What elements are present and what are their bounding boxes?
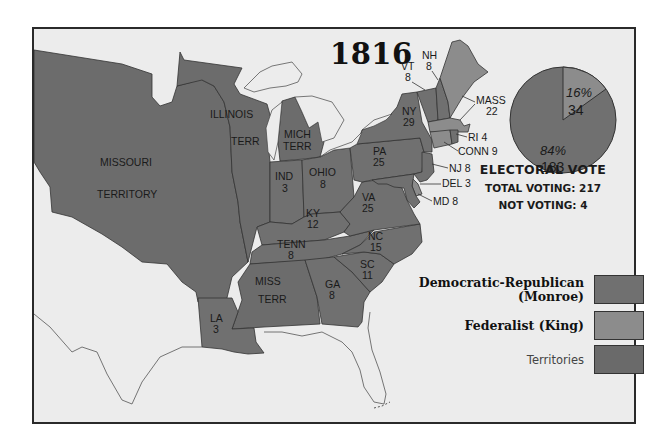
florida-keys [374,402,390,408]
legend-fed-label: Federalist (King) [465,319,584,333]
map-title: 1816 [330,37,413,71]
legend-democratic-republican: Democratic-Republican (Monroe) [419,275,644,304]
legend-dr-sublabel: (Monroe) [419,290,584,304]
not-voting: NOT VOTING: 4 [478,199,608,211]
region-miss-terr [232,260,320,329]
texas-coast-outline [34,314,202,404]
legend-territories: Territories [527,345,644,374]
region-conn [430,130,452,148]
legend-dr-label: Democratic-Republican [419,276,584,290]
legend-terr-label: Territories [527,353,584,367]
lake-superior [244,62,302,92]
total-voting: TOTAL VOTING: 217 [478,182,608,194]
legend-dr-swatch [594,275,644,304]
region-ind [270,160,304,224]
legend-fed-swatch [594,311,644,340]
legend-federalist: Federalist (King) [465,311,644,340]
electoral-vote-title: ELECTORAL VOTE [478,162,608,177]
legend-terr-swatch [594,345,644,374]
